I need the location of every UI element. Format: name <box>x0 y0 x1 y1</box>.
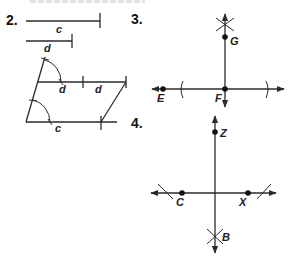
point-f <box>222 86 228 92</box>
point-x <box>245 190 251 196</box>
point-g <box>222 34 228 40</box>
arc-right <box>257 184 271 199</box>
point-z <box>212 129 218 135</box>
problem-4: 4. Z C X B <box>131 115 276 253</box>
point-e <box>160 86 166 92</box>
arc-left <box>158 184 173 199</box>
parallelogram-construction: d d c <box>26 57 126 134</box>
point-z-label: Z <box>219 127 228 139</box>
segment-c-label: c <box>56 23 62 35</box>
problem-4-number: 4. <box>131 115 143 131</box>
bottom-c-label: c <box>55 122 61 134</box>
problem-3-number: 3. <box>131 11 143 27</box>
point-g-label: G <box>230 35 239 47</box>
point-e-label: E <box>157 92 165 104</box>
point-c <box>179 190 185 196</box>
point-b-label: B <box>222 231 230 243</box>
problem-2: 2. c d <box>6 12 126 134</box>
segment-d: d <box>26 34 72 54</box>
segment-c: c <box>26 13 100 35</box>
geometry-constructions-figure: 2. c d <box>0 0 292 260</box>
top-right-d-label: d <box>95 83 102 95</box>
problem-2-number: 2. <box>6 12 18 28</box>
construction-canvas: 2. c d <box>0 0 292 260</box>
segment-d-label: d <box>44 42 51 54</box>
point-x-label: X <box>238 196 247 208</box>
top-left-d-label: d <box>59 83 66 95</box>
problem-3: 3. E F G <box>131 11 284 107</box>
point-c-label: C <box>176 196 185 208</box>
point-f-label: F <box>215 92 222 104</box>
